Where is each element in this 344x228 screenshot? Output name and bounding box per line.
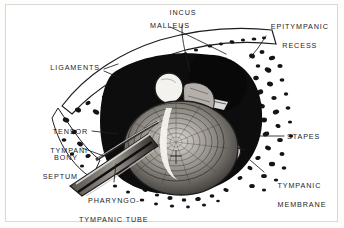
- label-tympanic-membrane-line2: MEMBRANE: [278, 200, 327, 209]
- label-tympanic-membrane-line1: TYMPANIC: [277, 181, 321, 190]
- label-malleus: MALLEUS: [141, 21, 199, 30]
- label-epitympanic-recess: EPITYMPANIC RECESS: [252, 13, 336, 59]
- leader-tympanic-membrane: [250, 160, 264, 172]
- label-ligaments: LIGAMENTS: [20, 63, 100, 72]
- label-epitympanic-recess-line1: EPITYMPANIC: [271, 22, 329, 31]
- label-pharyngotympanic-tube: PHARYNGO- TYMPANIC TUBE (AUDITORY): [52, 187, 164, 228]
- label-bony-septum-line2: SEPTUM: [43, 172, 78, 181]
- malleus-head: [155, 73, 183, 103]
- label-bony-septum-line1: BONY: [54, 153, 78, 162]
- label-tensor-tympani-line1: TENSOR: [53, 127, 88, 136]
- label-epitympanic-recess-line2: RECESS: [282, 41, 317, 50]
- label-bony-septum: BONY SEPTUM: [10, 144, 78, 190]
- label-tympanic-membrane: TYMPANIC MEMBRANE: [266, 172, 338, 218]
- label-pharyngotympanic-tube-line1: PHARYNGO-: [88, 196, 140, 205]
- label-pharyngotympanic-tube-line2: TYMPANIC TUBE: [79, 215, 148, 224]
- anatomical-figure: MALLEUS INCUS EPITYMPANIC RECESS LIGAMEN…: [0, 0, 344, 228]
- label-stapes: STAPES: [287, 132, 339, 141]
- label-incus: INCUS: [160, 8, 206, 17]
